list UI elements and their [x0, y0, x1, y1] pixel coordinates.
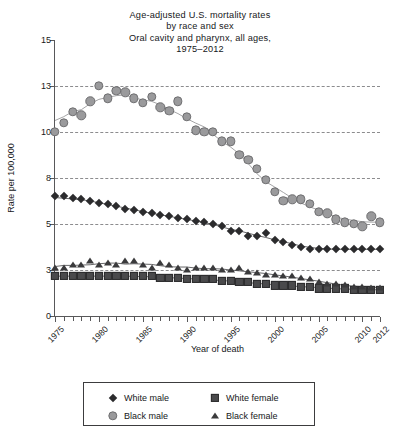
data-point-white-female — [218, 277, 226, 285]
x-tick-mark-1990 — [187, 317, 188, 322]
x-tick-label-1975: 1975 — [45, 324, 66, 345]
x-tick-mark-1975 — [55, 317, 56, 322]
plot-area: 0358101315 19751980198519901995200020052… — [55, 40, 380, 316]
legend-row-1: White male — [108, 391, 169, 405]
data-point-black-female — [95, 262, 103, 268]
data-point-black-female — [77, 262, 85, 268]
triangle-glyph — [211, 412, 219, 418]
legend-label-black-male: Black male — [124, 411, 168, 421]
data-point-black-female — [218, 266, 226, 272]
y-tick-label-5: 5 — [46, 219, 51, 229]
data-point-white-female — [235, 278, 243, 286]
legend-item-black-female[interactable]: Black female — [210, 411, 278, 421]
data-point-black-female — [358, 283, 366, 289]
x-tick-mark-1989 — [178, 317, 179, 321]
x-tick-mark-1999 — [266, 317, 267, 321]
data-point-black-female — [227, 266, 235, 272]
y-tick-label-15: 15 — [41, 35, 51, 45]
data-point-black-female — [192, 264, 200, 270]
x-tick-label-2000: 2000 — [265, 324, 286, 345]
circle-marker-icon — [108, 412, 117, 421]
x-tick-mark-2007 — [336, 317, 337, 321]
x-tick-mark-1996 — [239, 317, 240, 321]
square-marker-icon — [210, 394, 219, 403]
data-point-white-female — [104, 272, 112, 280]
legend-row-2: White female — [210, 391, 279, 405]
data-point-white-female — [279, 281, 287, 289]
data-point-black-female — [235, 264, 243, 270]
x-tick-mark-1987 — [160, 317, 161, 321]
legend-item-black-male[interactable]: Black male — [108, 411, 168, 421]
x-tick-mark-2001 — [283, 317, 284, 321]
data-point-black-female — [148, 264, 156, 270]
data-point-white-female — [314, 284, 322, 292]
circle-glyph — [108, 411, 117, 420]
data-point-white-female — [209, 275, 217, 283]
x-tick-mark-2004 — [310, 317, 311, 321]
x-tick-mark-1984 — [134, 317, 135, 321]
data-point-white-female — [95, 272, 103, 280]
data-point-white-female — [297, 283, 305, 291]
x-tick-mark-2005 — [319, 317, 320, 322]
x-tick-mark-2008 — [345, 317, 346, 321]
data-point-white-female — [60, 272, 68, 280]
data-point-black-female — [297, 274, 305, 280]
x-tick-label-1990: 1990 — [177, 324, 198, 345]
data-point-black-female — [200, 264, 208, 270]
legend-row-3: Black male — [108, 409, 168, 423]
data-point-black-female — [244, 268, 252, 274]
legend-item-white-male[interactable]: White male — [108, 393, 169, 403]
data-point-black-female — [279, 273, 287, 279]
x-tick-mark-1991 — [196, 317, 197, 321]
x-tick-mark-1995 — [231, 317, 232, 322]
triangle-marker-icon — [210, 412, 219, 421]
data-point-black-female — [112, 262, 120, 268]
data-point-black-female — [104, 259, 112, 265]
data-point-black-female — [350, 283, 358, 289]
data-point-white-female — [68, 272, 76, 280]
diamond-marker-icon — [108, 394, 117, 403]
x-tick-mark-2003 — [301, 317, 302, 321]
data-point-black-female — [288, 273, 296, 279]
data-point-white-female — [253, 280, 261, 288]
x-axis-title: Year of death — [55, 344, 380, 354]
data-point-white-female — [86, 272, 94, 280]
y-tick-label-0: 0 — [46, 311, 51, 321]
x-tick-mark-2006 — [327, 317, 328, 321]
data-point-black-female — [271, 271, 279, 277]
data-point-white-female — [244, 278, 252, 286]
x-tick-mark-1976 — [64, 317, 65, 321]
chart-legend: White male White female Black male Black… — [83, 382, 315, 426]
chart-title-line-1: Age-adjusted U.S. mortality rates — [55, 10, 345, 21]
data-point-black-female — [121, 257, 129, 263]
data-point-white-female — [271, 281, 279, 289]
data-point-white-female — [112, 272, 120, 280]
data-point-white-female — [139, 272, 147, 280]
data-point-black-female — [139, 262, 147, 268]
data-point-white-female — [262, 280, 270, 288]
chart-title-line-2: by race and sex — [55, 21, 345, 32]
x-tick-mark-2012 — [380, 317, 381, 322]
data-point-black-female — [315, 279, 323, 285]
x-tick-mark-2011 — [371, 317, 372, 321]
data-point-white-female — [306, 283, 314, 291]
legend-item-white-female[interactable]: White female — [210, 393, 279, 403]
data-point-white-female — [200, 275, 208, 283]
data-point-black-female — [209, 264, 217, 270]
data-point-white-female — [165, 274, 173, 282]
x-tick-mark-1982 — [116, 317, 117, 321]
x-tick-mark-1988 — [169, 317, 170, 321]
data-point-black-female — [367, 285, 375, 291]
data-point-black-female — [165, 262, 173, 268]
data-point-black-female — [156, 259, 164, 265]
data-point-black-female — [130, 257, 138, 263]
data-point-white-female — [174, 274, 182, 282]
data-point-black-female — [174, 264, 182, 270]
x-tick-mark-1997 — [248, 317, 249, 321]
x-tick-mark-1993 — [213, 317, 214, 321]
x-tick-label-2005: 2005 — [309, 324, 330, 345]
x-tick-label-1985: 1985 — [133, 324, 154, 345]
data-point-white-female — [156, 274, 164, 282]
legend-label-white-male: White male — [124, 393, 169, 403]
data-point-white-female — [191, 275, 199, 283]
